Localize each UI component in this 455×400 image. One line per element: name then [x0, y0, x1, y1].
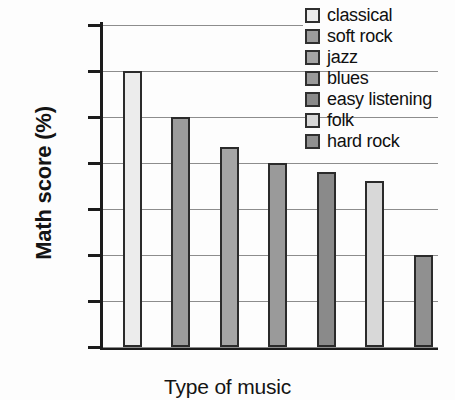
legend-swatch-icon: [305, 71, 320, 86]
bar-chart: Math score (%) 8580757065605550 Type of …: [0, 0, 455, 400]
legend-item: easy listening: [305, 89, 455, 110]
legend-swatch-icon: [305, 50, 320, 65]
legend-swatch-icon: [305, 113, 320, 128]
bar: [414, 255, 433, 347]
gridline: [103, 25, 303, 26]
y-axis-tick: [88, 70, 100, 73]
legend-item-label: folk: [327, 111, 354, 130]
y-axis-tick: [88, 254, 100, 257]
legend-item: hard rock: [305, 131, 455, 152]
legend-item-label: classical: [327, 6, 392, 25]
legend-item: classical: [305, 5, 455, 26]
legend-item-label: blues: [327, 69, 369, 88]
legend-item: folk: [305, 110, 455, 131]
legend-item-label: hard rock: [327, 132, 399, 151]
legend-item: jazz: [305, 47, 455, 68]
legend-swatch-icon: [305, 134, 320, 149]
y-axis-tick: [88, 300, 100, 303]
chart-legend: classicalsoft rockjazzblueseasy listenin…: [305, 5, 455, 152]
legend-item: blues: [305, 68, 455, 89]
x-axis-title: Type of music: [0, 375, 455, 399]
bar: [317, 172, 336, 347]
bar: [268, 163, 287, 347]
bar: [123, 71, 142, 347]
y-axis-tick: [88, 346, 100, 349]
legend-item-label: jazz: [327, 48, 358, 67]
y-axis-tick: [88, 116, 100, 119]
y-axis-tick: [88, 162, 100, 165]
legend-item-label: easy listening: [327, 90, 432, 109]
bar: [171, 117, 190, 347]
y-axis-tick: [88, 24, 100, 27]
y-axis-title: Math score (%): [31, 73, 57, 293]
legend-item: soft rock: [305, 26, 455, 47]
bar: [220, 147, 239, 347]
bar: [365, 181, 384, 347]
legend-swatch-icon: [305, 92, 320, 107]
legend-swatch-icon: [305, 29, 320, 44]
legend-swatch-icon: [305, 8, 320, 23]
y-axis-tick: [88, 208, 100, 211]
legend-item-label: soft rock: [327, 27, 392, 46]
